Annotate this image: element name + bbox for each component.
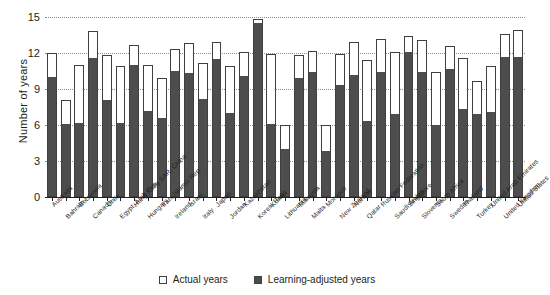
bar-segment-actual-years[interactable] xyxy=(404,36,414,52)
bar-stack[interactable] xyxy=(116,66,126,197)
bar-stack[interactable] xyxy=(362,60,372,197)
bar-stack[interactable] xyxy=(212,42,222,197)
bar-stack[interactable] xyxy=(486,66,496,197)
bar-stack[interactable] xyxy=(143,65,153,197)
bar-segment-actual-years[interactable] xyxy=(335,54,345,85)
bar-segment-actual-years[interactable] xyxy=(198,63,208,99)
bar-segment-learning-adjusted-years[interactable] xyxy=(500,57,510,197)
bar-segment-actual-years[interactable] xyxy=(239,52,249,76)
bar-segment-learning-adjusted-years[interactable] xyxy=(349,75,359,197)
bar-group[interactable] xyxy=(347,17,361,197)
bar-segment-actual-years[interactable] xyxy=(225,66,235,113)
bar-stack[interactable] xyxy=(129,45,139,197)
bar-segment-actual-years[interactable] xyxy=(143,65,153,111)
bar-segment-learning-adjusted-years[interactable] xyxy=(376,72,386,197)
bar-segment-actual-years[interactable] xyxy=(321,125,331,151)
bar-segment-learning-adjusted-years[interactable] xyxy=(486,112,496,197)
bar-stack[interactable] xyxy=(74,65,84,197)
bar-group[interactable] xyxy=(237,17,251,197)
bar-segment-learning-adjusted-years[interactable] xyxy=(198,99,208,197)
legend-item[interactable]: Learning-adjusted years xyxy=(254,274,375,285)
bar-segment-actual-years[interactable] xyxy=(170,49,180,71)
bar-segment-actual-years[interactable] xyxy=(472,81,482,115)
bar-segment-actual-years[interactable] xyxy=(294,55,304,78)
bar-group[interactable] xyxy=(319,17,333,197)
bar-segment-actual-years[interactable] xyxy=(157,78,167,118)
bar-segment-actual-years[interactable] xyxy=(376,39,386,73)
bar-group[interactable] xyxy=(457,17,471,197)
bar-stack[interactable] xyxy=(88,31,98,197)
bar-segment-learning-adjusted-years[interactable] xyxy=(102,100,112,197)
legend-item[interactable]: Actual years xyxy=(159,274,228,285)
bar-segment-actual-years[interactable] xyxy=(458,58,468,110)
bar-group[interactable] xyxy=(374,17,388,197)
bar-segment-learning-adjusted-years[interactable] xyxy=(445,69,455,197)
bar-group[interactable] xyxy=(306,17,320,197)
bar-segment-actual-years[interactable] xyxy=(280,125,290,149)
bar-group[interactable] xyxy=(388,17,402,197)
bar-segment-learning-adjusted-years[interactable] xyxy=(47,77,57,197)
bar-segment-actual-years[interactable] xyxy=(102,55,112,99)
bar-segment-learning-adjusted-years[interactable] xyxy=(335,85,345,197)
bar-group[interactable] xyxy=(141,17,155,197)
bar-segment-actual-years[interactable] xyxy=(431,72,441,125)
bar-stack[interactable] xyxy=(294,55,304,197)
bar-stack[interactable] xyxy=(253,19,263,197)
bar-stack[interactable] xyxy=(280,125,290,197)
bar-segment-learning-adjusted-years[interactable] xyxy=(253,23,263,197)
bar-stack[interactable] xyxy=(445,46,455,197)
bar-segment-learning-adjusted-years[interactable] xyxy=(225,113,235,197)
bar-stack[interactable] xyxy=(266,54,276,197)
bar-segment-actual-years[interactable] xyxy=(417,40,427,72)
bar-group[interactable] xyxy=(114,17,128,197)
bar-stack[interactable] xyxy=(308,51,318,197)
bar-group[interactable] xyxy=(59,17,73,197)
bar-stack[interactable] xyxy=(376,39,386,197)
bar-group[interactable] xyxy=(100,17,114,197)
bar-segment-learning-adjusted-years[interactable] xyxy=(129,65,139,197)
bar-segment-learning-adjusted-years[interactable] xyxy=(308,72,318,197)
bar-segment-learning-adjusted-years[interactable] xyxy=(417,72,427,197)
bar-segment-actual-years[interactable] xyxy=(390,52,400,114)
bar-stack[interactable] xyxy=(170,49,180,197)
bar-group[interactable] xyxy=(210,17,224,197)
bar-stack[interactable] xyxy=(321,125,331,197)
bar-segment-learning-adjusted-years[interactable] xyxy=(294,78,304,197)
bar-stack[interactable] xyxy=(47,53,57,197)
bar-stack[interactable] xyxy=(335,54,345,197)
bar-segment-learning-adjusted-years[interactable] xyxy=(239,76,249,197)
bar-segment-actual-years[interactable] xyxy=(500,34,510,57)
bar-segment-actual-years[interactable] xyxy=(212,42,222,59)
bar-group[interactable] xyxy=(333,17,347,197)
bar-segment-actual-years[interactable] xyxy=(61,100,71,124)
bar-group[interactable] xyxy=(292,17,306,197)
bar-group[interactable] xyxy=(484,17,498,197)
bar-stack[interactable] xyxy=(349,42,359,197)
bar-segment-actual-years[interactable] xyxy=(129,45,139,65)
bar-segment-actual-years[interactable] xyxy=(116,66,126,122)
bar-segment-actual-years[interactable] xyxy=(362,60,372,121)
bar-group[interactable] xyxy=(223,17,237,197)
bar-stack[interactable] xyxy=(390,52,400,197)
bar-segment-learning-adjusted-years[interactable] xyxy=(321,151,331,197)
bar-group[interactable] xyxy=(45,17,59,197)
bar-stack[interactable] xyxy=(500,34,510,197)
bar-segment-actual-years[interactable] xyxy=(513,30,523,56)
bar-segment-actual-years[interactable] xyxy=(88,31,98,57)
bar-stack[interactable] xyxy=(472,81,482,197)
bar-segment-actual-years[interactable] xyxy=(184,43,194,73)
bar-segment-learning-adjusted-years[interactable] xyxy=(74,123,84,197)
bar-stack[interactable] xyxy=(225,66,235,197)
bar-group[interactable] xyxy=(443,17,457,197)
bar-segment-actual-years[interactable] xyxy=(486,66,496,112)
bar-group[interactable] xyxy=(265,17,279,197)
bar-segment-learning-adjusted-years[interactable] xyxy=(116,123,126,197)
bar-stack[interactable] xyxy=(102,55,112,197)
bar-segment-actual-years[interactable] xyxy=(349,42,359,74)
bar-group[interactable] xyxy=(72,17,86,197)
bar-group[interactable] xyxy=(251,17,265,197)
bar-stack[interactable] xyxy=(239,52,249,197)
bar-stack[interactable] xyxy=(431,72,441,197)
bar-segment-learning-adjusted-years[interactable] xyxy=(170,71,180,197)
bar-group[interactable] xyxy=(86,17,100,197)
